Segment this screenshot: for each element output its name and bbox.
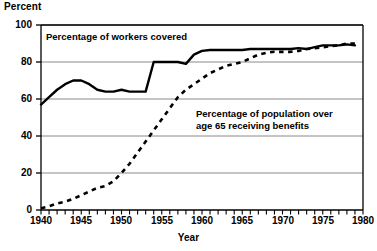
x-axis-ticks (41, 210, 363, 215)
x-tick-label-1970: 1970 (263, 215, 303, 226)
x-tick-label-1955: 1955 (142, 215, 182, 226)
x-tick-label-1965: 1965 (222, 215, 262, 226)
x-tick-label-1940: 1940 (21, 215, 61, 226)
y-axis-title: Percent (4, 1, 41, 12)
y-tick-label-60: 60 (2, 93, 32, 104)
x-axis-title: Year (0, 232, 377, 243)
x-tick-label-1975: 1975 (303, 215, 343, 226)
chart-container: Percent (0, 0, 377, 251)
x-tick-label-1945: 1945 (61, 215, 101, 226)
series-label-workers-covered: Percentage of workers covered (46, 31, 187, 43)
series-label-elderly-line2: age 65 receiving benefits (196, 120, 333, 132)
series-label-elderly-line1: Percentage of population over (196, 108, 333, 120)
x-tick-label-1980: 1980 (343, 215, 377, 226)
y-tick-label-0: 0 (2, 204, 32, 215)
series-workers-covered (41, 44, 355, 104)
y-tick-label-40: 40 (2, 130, 32, 141)
y-tick-label-20: 20 (2, 167, 32, 178)
x-tick-label-1960: 1960 (182, 215, 222, 226)
y-axis-ticks (36, 25, 41, 210)
x-tick-label-1950: 1950 (101, 215, 141, 226)
y-tick-label-80: 80 (2, 56, 32, 67)
series-label-elderly-benefits: Percentage of population over age 65 rec… (196, 108, 333, 132)
y-tick-label-100: 100 (2, 19, 32, 30)
